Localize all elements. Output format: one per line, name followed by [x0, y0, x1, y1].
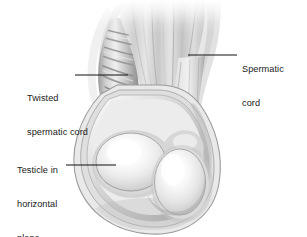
label-testicle-horizontal-plane: Testicle in horizontal plane [17, 142, 58, 237]
label-twisted-cord-line2: spermatic cord [27, 127, 88, 138]
label-testicle-line2: horizontal [17, 199, 58, 210]
label-testicle-line1: Testicle in [17, 165, 58, 176]
label-spermatic-cord: Spermatic cord [242, 41, 284, 132]
label-spermatic-cord-line2: cord [242, 98, 284, 109]
illustration-figure: Spermatic cord Twisted spermatic cord Te… [0, 0, 307, 237]
label-twisted-cord-line1: Twisted [27, 93, 88, 104]
label-spermatic-cord-line1: Spermatic [242, 64, 284, 75]
label-testicle-line3: plane [17, 233, 58, 237]
